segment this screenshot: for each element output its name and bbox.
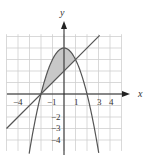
y-tick-label: −4 xyxy=(51,135,61,145)
x-tick-label: 4 xyxy=(109,97,114,107)
x-tick-label: −4 xyxy=(13,97,23,107)
y-tick-label: −2 xyxy=(51,112,61,122)
x-axis-arrow-icon xyxy=(122,91,130,97)
y-axis-arrow-icon xyxy=(61,21,67,29)
x-tick-label: 1 xyxy=(74,97,79,107)
x-tick-label: −1 xyxy=(47,97,57,107)
x-tick-label: 3 xyxy=(97,97,102,107)
graph: x y −4 −1 1 3 4 −2 −3 −4 xyxy=(0,0,150,163)
y-axis-label: y xyxy=(59,7,65,18)
y-tick-label: −3 xyxy=(51,123,61,133)
x-axis-label: x xyxy=(137,88,143,99)
